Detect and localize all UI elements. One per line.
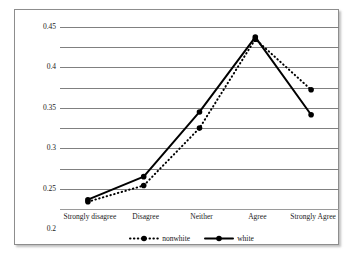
legend-swatch-white bbox=[204, 234, 234, 243]
legend-label-nonwhite: nonwhite bbox=[162, 235, 190, 243]
legend-swatch-nonwhite bbox=[129, 234, 159, 243]
x-axis-tick-label: Strongly disagree bbox=[64, 213, 117, 221]
y-axis-tick-label: 0.3 bbox=[47, 145, 56, 153]
x-axis-tick-label: Strongly Agree bbox=[290, 213, 336, 221]
chart-legend: nonwhitewhite bbox=[29, 234, 354, 243]
y-axis-tick-label: 0.45 bbox=[43, 23, 56, 31]
legend-item-white[interactable]: white bbox=[204, 234, 254, 243]
gridline: 0 bbox=[60, 209, 339, 210]
x-axis-labels: Strongly disagreeDisagreeNeitherAgreeStr… bbox=[31, 213, 356, 227]
series-line-white bbox=[88, 37, 311, 200]
series-line-nonwhite bbox=[88, 39, 311, 202]
y-axis-tick-label: 0.35 bbox=[43, 104, 56, 112]
y-axis-tick-label: 0.4 bbox=[47, 64, 56, 72]
data-point-white bbox=[85, 197, 91, 203]
x-axis-tick-label: Disagree bbox=[132, 213, 159, 221]
data-point-white bbox=[141, 174, 147, 180]
data-point-nonwhite bbox=[308, 87, 314, 93]
data-point-white bbox=[253, 34, 259, 40]
y-axis-tick-label: 0.25 bbox=[43, 185, 56, 193]
chart-series-layer bbox=[60, 27, 339, 209]
data-point-nonwhite bbox=[141, 183, 147, 189]
data-point-white bbox=[197, 109, 203, 115]
legend-label-white: white bbox=[237, 235, 254, 243]
x-axis-tick-label: Agree bbox=[248, 213, 266, 221]
legend-item-nonwhite[interactable]: nonwhite bbox=[129, 234, 190, 243]
plot-area: 00.050.10.150.20.250.30.350.40.45 bbox=[60, 27, 339, 209]
chart-frame: 00.050.10.150.20.250.30.350.40.45 Strong… bbox=[14, 9, 339, 245]
x-axis-tick-label: Neither bbox=[190, 213, 213, 221]
chart-figure: 00.050.10.150.20.250.30.350.40.45 Strong… bbox=[0, 0, 358, 262]
data-point-white bbox=[308, 112, 314, 118]
data-point-nonwhite bbox=[197, 125, 203, 131]
